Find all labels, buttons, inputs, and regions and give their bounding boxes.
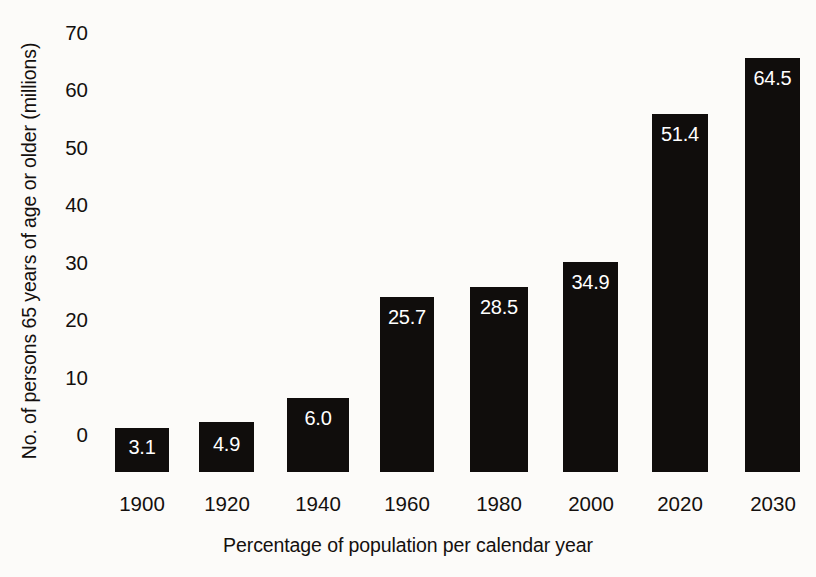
y-tick-label: 70 xyxy=(42,23,88,44)
y-tick-label: 40 xyxy=(42,195,88,216)
y-tick-label: 0 xyxy=(42,425,88,446)
bar-1980: 28.5 xyxy=(470,287,528,472)
bar-value-label: 34.9 xyxy=(563,272,618,292)
y-tick-label: 10 xyxy=(42,368,88,389)
bar-2000: 34.9 xyxy=(563,262,618,472)
bar-1960: 25.7 xyxy=(380,297,434,472)
x-tick-label-1940: 1940 xyxy=(276,494,360,515)
bar-2020: 51.4 xyxy=(652,114,708,472)
bar-1920: 4.9 xyxy=(199,422,254,472)
bar-value-label: 28.5 xyxy=(470,297,528,317)
x-tick-label-1980: 1980 xyxy=(457,494,541,515)
bar-value-label: 3.1 xyxy=(115,437,169,457)
x-axis-title: Percentage of population per calendar ye… xyxy=(0,534,816,557)
y-axis-title: No. of persons 65 years of age or older … xyxy=(12,16,46,486)
x-tick-label-2000: 2000 xyxy=(549,494,633,515)
bar-value-label: 64.5 xyxy=(745,68,800,88)
bar-value-label: 6.0 xyxy=(287,408,349,428)
bar-2030: 64.5 xyxy=(745,58,800,472)
bar-value-label: 51.4 xyxy=(652,124,708,144)
bar-1900: 3.1 xyxy=(115,428,169,472)
chart-figure: No. of persons 65 years of age or older … xyxy=(0,0,816,577)
plot-area: 3.1 1900 4.9 1920 6.0 1940 25.7 1960 28.… xyxy=(103,0,816,577)
x-tick-label-1920: 1920 xyxy=(185,494,269,515)
y-tick-label: 30 xyxy=(42,253,88,274)
bar-value-label: 25.7 xyxy=(380,307,434,327)
y-tick-label: 60 xyxy=(42,80,88,101)
x-tick-label-2030: 2030 xyxy=(731,494,815,515)
y-tick-label: 20 xyxy=(42,310,88,331)
x-tick-label-1960: 1960 xyxy=(365,494,449,515)
x-tick-label-2020: 2020 xyxy=(638,494,722,515)
bar-1940: 6.0 xyxy=(287,398,349,472)
y-axis-tick-labels: 70 60 50 40 30 20 10 0 xyxy=(42,0,88,577)
y-tick-label: 50 xyxy=(42,138,88,159)
bar-value-label: 4.9 xyxy=(199,434,254,454)
x-tick-label-1900: 1900 xyxy=(100,494,184,515)
